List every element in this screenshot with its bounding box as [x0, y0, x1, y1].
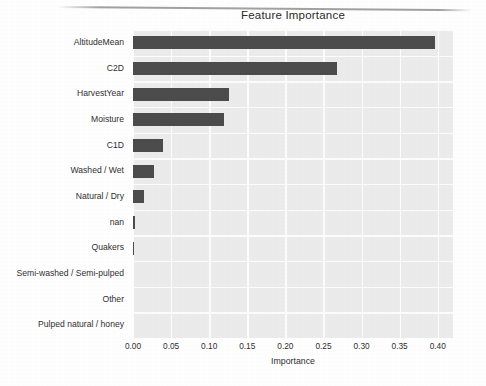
x-tick-label: 0.05	[151, 341, 191, 351]
gridline-horizontal	[133, 81, 453, 82]
feature-importance-chart: Feature Importance AltitudeMeanC2DHarves…	[0, 0, 486, 386]
bar	[133, 216, 135, 229]
y-tick-label: HarvestYear	[77, 88, 124, 98]
y-tick-label: Other	[103, 294, 125, 304]
x-tick-label: 0.25	[303, 341, 343, 351]
gridline-horizontal	[133, 235, 453, 236]
bar	[133, 242, 134, 255]
gridline-horizontal	[133, 158, 453, 159]
x-tick-label: 0.00	[113, 341, 153, 351]
y-tick-label: Natural / Dry	[76, 191, 124, 201]
y-tick-label: Semi-washed / Semi-pulped	[17, 268, 124, 278]
gridline-horizontal	[133, 30, 453, 31]
y-tick-label: Moisture	[91, 114, 124, 124]
plot-area	[133, 30, 453, 338]
x-tick-label: 0.10	[189, 341, 229, 351]
bar	[133, 139, 163, 152]
gridline-horizontal	[133, 312, 453, 313]
y-tick-label: C2D	[107, 63, 124, 73]
bar	[133, 165, 154, 178]
y-tick-label: C1D	[107, 140, 124, 150]
y-tick-label: Washed / Wet	[71, 165, 125, 175]
x-tick-label: 0.30	[342, 341, 382, 351]
gridline-horizontal	[133, 133, 453, 134]
gridline-horizontal	[133, 287, 453, 288]
gridline-horizontal	[133, 210, 453, 211]
y-tick-label: Quakers	[92, 242, 124, 252]
gridline-horizontal	[133, 107, 453, 108]
bar	[133, 88, 229, 101]
chart-title: Feature Importance	[133, 9, 453, 21]
y-tick-label: AltitudeMean	[74, 37, 124, 47]
x-tick-label: 0.15	[227, 341, 267, 351]
x-tick-label: 0.20	[265, 341, 305, 351]
bar	[133, 36, 435, 49]
bar	[133, 190, 144, 203]
y-axis-tick-labels: AltitudeMeanC2DHarvestYearMoistureC1DWas…	[0, 30, 128, 338]
x-axis-tick-labels: 0.000.050.100.150.200.250.300.350.40	[0, 341, 486, 355]
gridline-horizontal	[133, 184, 453, 185]
y-tick-label: nan	[110, 217, 124, 227]
bar	[133, 62, 337, 75]
bar	[133, 113, 224, 126]
x-tick-label: 0.35	[380, 341, 420, 351]
x-axis-title: Importance	[133, 356, 453, 366]
x-tick-label: 0.40	[418, 341, 458, 351]
gridline-horizontal	[133, 56, 453, 57]
gridline-horizontal	[133, 261, 453, 262]
y-tick-label: Pulped natural / honey	[38, 319, 124, 329]
